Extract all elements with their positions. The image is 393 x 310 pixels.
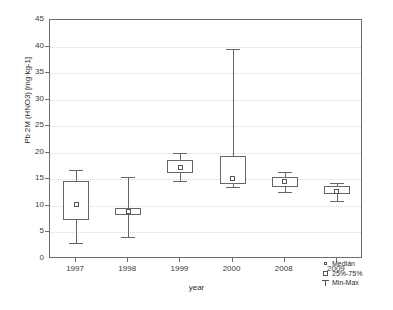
legend-label-median: Medián [331, 259, 355, 269]
y-tick-label: 0 [22, 254, 44, 262]
gridline [50, 232, 361, 233]
whisker-cap-min [330, 201, 344, 202]
x-tick-label: 1997 [55, 264, 95, 273]
whisker-cap-min [278, 192, 292, 193]
median-marker [282, 179, 287, 184]
x-tick-label: 1999 [159, 264, 199, 273]
median-marker [178, 165, 183, 170]
gridline [50, 153, 361, 154]
median-marker [230, 176, 235, 181]
y-tick-label: 5 [22, 227, 44, 235]
whisker-cap-min [69, 243, 83, 244]
median-marker [74, 202, 79, 207]
chart-legend: Medián 25%-75% Min-Max [320, 259, 362, 288]
legend-label-minmax: Min-Max [331, 278, 359, 288]
box-quartile-rect [63, 181, 89, 220]
x-tick-mark [75, 258, 76, 262]
y-tick-label: 15 [22, 174, 44, 182]
gridline [50, 73, 361, 74]
whisker-cap-max [173, 153, 187, 154]
x-tick-mark [284, 258, 285, 262]
gridline [50, 179, 361, 180]
whisker-cap-max [121, 177, 135, 178]
gridline [50, 100, 361, 101]
chart-root: 051015202530354045 Pb 2M (HNO3) [mg·kg-1… [0, 0, 393, 310]
gridline [50, 47, 361, 48]
x-tick-mark [127, 258, 128, 262]
gridline [50, 126, 361, 127]
whisker-cap-min [121, 237, 135, 238]
median-marker [126, 209, 131, 214]
median-marker-icon [320, 262, 331, 265]
whisker-cap-min [173, 181, 187, 182]
legend-item-minmax: Min-Max [320, 278, 362, 288]
legend-item-median: Medián [320, 259, 362, 269]
x-tick-mark [179, 258, 180, 262]
whisker-cap-max [330, 183, 344, 184]
plot-area [49, 19, 362, 258]
x-tick-mark [232, 258, 233, 262]
whisker-marker-icon [320, 279, 331, 286]
box-marker-icon [320, 271, 331, 276]
whisker-cap-max [278, 172, 292, 173]
gridline [50, 206, 361, 207]
whisker-cap-max [226, 49, 240, 50]
x-tick-label: 2000 [212, 264, 252, 273]
x-tick-label: 2008 [264, 264, 304, 273]
x-tick-label: 1998 [107, 264, 147, 273]
whisker-line [128, 177, 129, 237]
median-marker [334, 189, 339, 194]
legend-label-quartiles: 25%-75% [331, 269, 362, 279]
whisker-cap-min [226, 187, 240, 188]
y-tick-label: 45 [22, 15, 44, 23]
y-tick-label: 10 [22, 201, 44, 209]
legend-item-quartiles: 25%-75% [320, 269, 362, 279]
whisker-cap-max [69, 170, 83, 171]
y-axis-title: Pb 2M (HNO3) [mg·kg-1] [23, 26, 32, 176]
